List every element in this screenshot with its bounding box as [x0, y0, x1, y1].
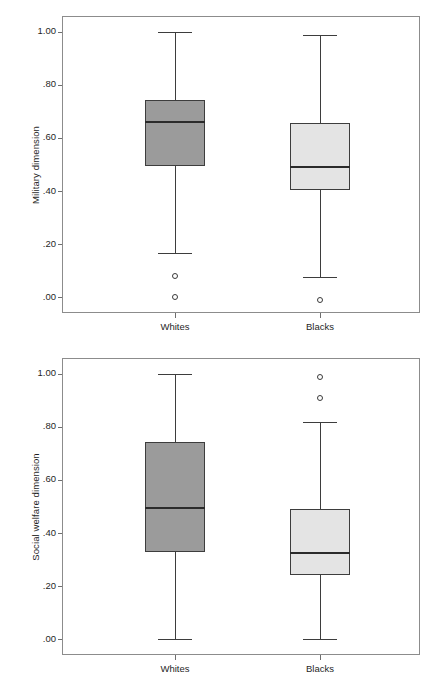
- chart-panel-social-welfare: Social welfare dimension1.00.80.60.40.20…: [0, 342, 434, 684]
- outlier-marker-whites: [172, 273, 178, 279]
- y-tick-label: .40: [16, 527, 56, 538]
- y-tick-mark: [58, 374, 62, 375]
- whisker-lower-whites: [175, 166, 176, 254]
- boxplot-figure: Military dimension1.00.80.60.40.20.00Whi…: [0, 0, 434, 684]
- y-tick-mark: [58, 244, 62, 245]
- whisker-lower-blacks: [320, 575, 321, 639]
- y-tick-label: .20: [16, 580, 56, 591]
- whisker-cap-upper-blacks: [303, 422, 337, 423]
- x-tick-mark: [175, 655, 176, 660]
- outlier-marker-blacks: [317, 395, 323, 401]
- whisker-cap-upper-whites: [158, 32, 192, 33]
- outlier-marker-blacks: [317, 297, 323, 303]
- whisker-cap-lower-blacks: [303, 639, 337, 640]
- whisker-upper-whites: [175, 32, 176, 100]
- median-line-whites: [145, 121, 205, 123]
- x-tick-label-blacks: Blacks: [270, 321, 370, 332]
- x-tick-mark: [175, 313, 176, 318]
- whisker-lower-blacks: [320, 190, 321, 278]
- y-tick-mark: [58, 191, 62, 192]
- y-tick-mark: [58, 32, 62, 33]
- plot-frame-military: [62, 16, 420, 313]
- box-whites[interactable]: [145, 442, 205, 552]
- chart-panel-military: Military dimension1.00.80.60.40.20.00Whi…: [0, 0, 434, 342]
- whisker-cap-upper-whites: [158, 374, 192, 375]
- x-tick-label-whites: Whites: [125, 663, 225, 674]
- y-tick-label: .00: [16, 633, 56, 644]
- x-tick-mark: [320, 313, 321, 318]
- outlier-marker-blacks: [317, 374, 323, 380]
- y-tick-mark: [58, 480, 62, 481]
- x-tick-label-whites: Whites: [125, 321, 225, 332]
- whisker-upper-whites: [175, 374, 176, 442]
- y-tick-label: 1.00: [16, 25, 56, 36]
- y-tick-mark: [58, 85, 62, 86]
- y-tick-mark: [58, 138, 62, 139]
- y-tick-mark: [58, 639, 62, 640]
- plot-frame-social-welfare: [62, 358, 420, 655]
- x-tick-label-blacks: Blacks: [270, 663, 370, 674]
- y-tick-label: .60: [16, 473, 56, 484]
- box-blacks[interactable]: [290, 509, 350, 575]
- box-whites[interactable]: [145, 100, 205, 166]
- whisker-cap-lower-blacks: [303, 277, 337, 278]
- whisker-upper-blacks: [320, 35, 321, 124]
- whisker-upper-blacks: [320, 422, 321, 510]
- y-tick-label: 1.00: [16, 367, 56, 378]
- x-tick-mark: [320, 655, 321, 660]
- whisker-lower-whites: [175, 552, 176, 640]
- box-blacks[interactable]: [290, 123, 350, 189]
- y-tick-label: .60: [16, 131, 56, 142]
- y-tick-label: .00: [16, 291, 56, 302]
- median-line-blacks: [290, 166, 350, 168]
- y-tick-label: .40: [16, 185, 56, 196]
- y-axis-label-social-welfare: Social welfare dimension: [30, 453, 41, 560]
- y-tick-mark: [58, 297, 62, 298]
- median-line-whites: [145, 507, 205, 509]
- whisker-cap-lower-whites: [158, 253, 192, 254]
- y-tick-label: .80: [16, 420, 56, 431]
- y-tick-label: .80: [16, 78, 56, 89]
- whisker-cap-upper-blacks: [303, 35, 337, 36]
- whisker-cap-lower-whites: [158, 639, 192, 640]
- y-tick-mark: [58, 533, 62, 534]
- y-tick-mark: [58, 427, 62, 428]
- y-tick-mark: [58, 586, 62, 587]
- median-line-blacks: [290, 552, 350, 554]
- y-tick-label: .20: [16, 238, 56, 249]
